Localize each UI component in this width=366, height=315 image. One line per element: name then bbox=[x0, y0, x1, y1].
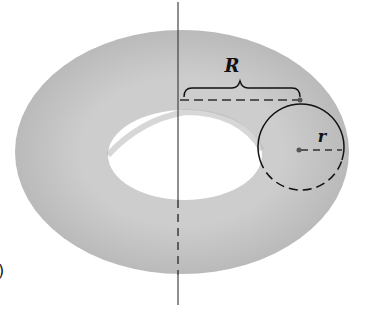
major-radius-endpoint bbox=[298, 98, 303, 103]
label-major-radius: R bbox=[224, 55, 240, 76]
torus-diagram: R r ) bbox=[0, 0, 366, 315]
cross-section-center bbox=[297, 148, 302, 153]
corner-mark: ) bbox=[0, 261, 4, 280]
